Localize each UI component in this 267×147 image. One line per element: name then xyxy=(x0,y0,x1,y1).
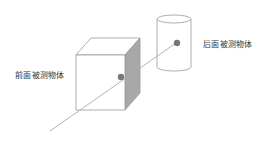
back-object-label: 后面被测物体 xyxy=(203,38,253,49)
front-object-cube xyxy=(76,38,140,110)
front-object-label: 前面被测物体 xyxy=(15,69,65,80)
front-hit-point-icon xyxy=(118,74,124,80)
back-hit-point-icon xyxy=(174,40,180,46)
